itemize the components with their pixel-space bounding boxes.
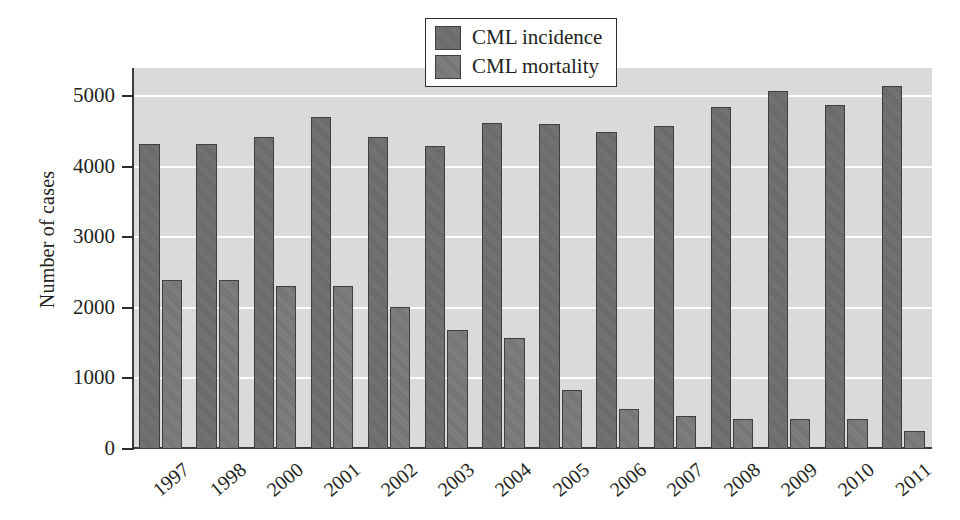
bar-mortality-2003[interactable]: [447, 330, 467, 449]
bar-incidence-1998[interactable]: [196, 144, 216, 450]
y-axis-tick-label: 1000: [15, 367, 115, 388]
y-axis-tick-label: 5000: [15, 85, 115, 106]
bar-group: [425, 68, 468, 449]
legend-label-mortality: CML mortality: [472, 56, 599, 77]
bar-group: [711, 68, 754, 449]
y-axis-tick-label: 0: [15, 438, 115, 459]
bar-incidence-2006[interactable]: [596, 132, 616, 450]
bar-group: [482, 68, 525, 449]
bar-group: [254, 68, 297, 449]
bar-group: [539, 68, 582, 449]
y-axis-tick-label: 2000: [15, 297, 115, 318]
bar-mortality-2010[interactable]: [847, 419, 867, 449]
y-axis-tick: [122, 377, 134, 379]
chart-legend: CML incidence CML mortality: [425, 18, 617, 87]
bar-incidence-2000[interactable]: [254, 137, 274, 449]
bar-mortality-2000[interactable]: [276, 286, 296, 449]
bar-group: [311, 68, 354, 449]
bar-incidence-2008[interactable]: [711, 107, 731, 449]
bar-incidence-2009[interactable]: [768, 91, 788, 449]
y-axis-tick: [122, 166, 134, 168]
bar-group: [825, 68, 868, 449]
bar-mortality-2006[interactable]: [619, 409, 639, 449]
y-axis-tick: [122, 307, 134, 309]
bar-incidence-2003[interactable]: [425, 146, 445, 449]
bar-mortality-2008[interactable]: [733, 419, 753, 449]
cml-incidence-mortality-chart: Number of cases 010002000300040005000 19…: [0, 0, 960, 520]
bar-mortality-2007[interactable]: [676, 416, 696, 449]
bar-mortality-2009[interactable]: [790, 419, 810, 449]
bar-incidence-2005[interactable]: [539, 124, 559, 449]
y-axis-tick: [122, 236, 134, 238]
bar-incidence-2007[interactable]: [654, 126, 674, 449]
bar-incidence-2001[interactable]: [311, 117, 331, 449]
bar-group: [368, 68, 411, 449]
y-axis-tick: [122, 95, 134, 97]
bar-group: [654, 68, 697, 449]
bar-incidence-2004[interactable]: [482, 123, 502, 449]
bars-layer: [134, 68, 932, 449]
bar-group: [139, 68, 182, 449]
bar-mortality-1997[interactable]: [162, 280, 182, 449]
bar-mortality-2001[interactable]: [333, 286, 353, 449]
legend-label-incidence: CML incidence: [472, 27, 602, 48]
bar-incidence-2011[interactable]: [882, 86, 902, 449]
bar-incidence-1997[interactable]: [139, 144, 159, 450]
bar-mortality-2004[interactable]: [504, 338, 524, 449]
bar-group: [882, 68, 925, 449]
bar-group: [596, 68, 639, 449]
y-axis-tick-label: 4000: [15, 156, 115, 177]
legend-swatch-mortality-icon: [435, 55, 461, 79]
y-axis-tick: [122, 448, 134, 450]
legend-swatch-incidence-icon: [435, 26, 461, 50]
bar-mortality-2011[interactable]: [904, 431, 924, 449]
bar-mortality-2002[interactable]: [390, 307, 410, 449]
legend-item-incidence[interactable]: CML incidence: [435, 24, 602, 51]
legend-item-mortality[interactable]: CML mortality: [435, 53, 602, 80]
y-axis-tick-label: 3000: [15, 226, 115, 247]
bar-mortality-1998[interactable]: [219, 280, 239, 449]
x-axis-labels: 1997199820002001200220032004200520062007…: [134, 452, 932, 518]
bar-group: [768, 68, 811, 449]
bar-incidence-2010[interactable]: [825, 105, 845, 449]
bar-group: [196, 68, 239, 449]
bar-mortality-2005[interactable]: [562, 390, 582, 449]
bar-incidence-2002[interactable]: [368, 137, 388, 449]
